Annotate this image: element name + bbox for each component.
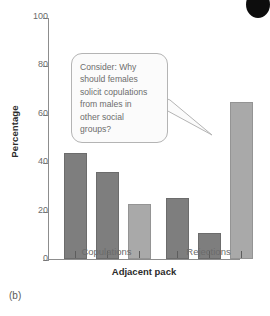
y-axis-tick-label: 100 [33, 11, 48, 21]
y-axis-tick-label: 40 [38, 156, 48, 166]
y-axis-tick-label: 60 [38, 108, 48, 118]
speech-bubble-text: Consider: Why should females solicit cop… [80, 61, 164, 135]
x-axis-title: Adjacent pack [48, 266, 240, 277]
y-axis-title: Percentage [9, 95, 20, 169]
y-axis-tick-label: 80 [38, 59, 48, 69]
x-axis-group-label: Rejections [159, 246, 259, 257]
bar-chart-figure: Percentage 020406080100 CopulationsRejec… [0, 0, 270, 316]
y-axis-tick-label: 20 [38, 205, 48, 215]
x-axis-group-label: Copulations [57, 246, 157, 257]
bar [64, 153, 87, 259]
speech-bubble: Consider: Why should females solicit cop… [71, 53, 168, 143]
x-axis-line [48, 259, 240, 260]
bar [230, 102, 253, 259]
y-axis-line [48, 18, 49, 260]
y-axis-tick-label: 0 [43, 253, 48, 263]
figure-caption: (b) [9, 290, 21, 301]
